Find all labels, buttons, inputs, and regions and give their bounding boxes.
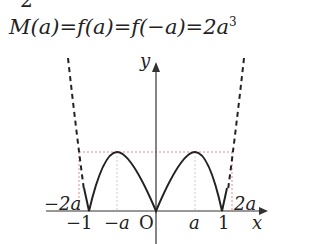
y-axis-label: y xyxy=(140,50,150,71)
tick-one: 1 xyxy=(218,212,229,233)
annotation-pos-2a: 2a xyxy=(234,193,256,214)
tick-a: a xyxy=(189,212,200,233)
dashed-curve-right xyxy=(228,58,244,190)
origin-label: O xyxy=(139,212,154,233)
x-axis-label: x xyxy=(252,212,262,233)
y-axis-arrow xyxy=(152,62,160,72)
tick-neg-a: −a xyxy=(104,212,130,233)
annotation-neg-2a: −2a xyxy=(44,193,81,214)
dashed-curve-left xyxy=(68,58,84,190)
tick-neg-one: −1 xyxy=(66,212,93,233)
